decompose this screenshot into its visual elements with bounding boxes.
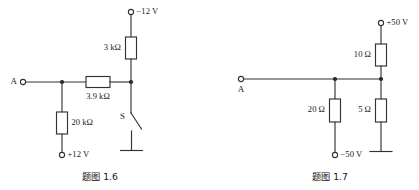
- resistor-10-label: 10 Ω: [354, 49, 371, 59]
- figure-sheet: −12 V 3 kΩ A 3.9 kΩ: [0, 0, 419, 190]
- figure-caption-1-6: 题图 1.6: [82, 171, 118, 182]
- terminal-ring-a-left[interactable]: [20, 79, 25, 84]
- terminal-label-a-right: A: [238, 84, 245, 94]
- switch-label-s: S: [120, 111, 125, 121]
- resistor-3k-label: 3 kΩ: [104, 42, 121, 52]
- terminal-ring-plus-50v[interactable]: [378, 20, 383, 25]
- resistor-20k: [57, 112, 68, 134]
- resistor-3k: [126, 37, 137, 59]
- supply-label-minus-50v: −50 V: [341, 149, 363, 159]
- figure-caption-1-7: 题图 1.7: [312, 171, 348, 182]
- resistor-3p9k: [86, 77, 110, 88]
- figure-1-6-group: −12 V 3 kΩ A 3.9 kΩ: [11, 6, 159, 182]
- resistor-10: [376, 44, 387, 66]
- terminal-ring-minus-12v[interactable]: [128, 9, 133, 14]
- circuit-diagram-canvas: −12 V 3 kΩ A 3.9 kΩ: [0, 0, 419, 190]
- switch-blade[interactable]: [131, 113, 142, 129]
- terminal-ring-a-right[interactable]: [238, 76, 243, 81]
- terminal-ring-minus-50v[interactable]: [332, 152, 337, 157]
- resistor-20-label: 20 Ω: [308, 104, 325, 114]
- resistor-20: [330, 99, 341, 122]
- supply-label-minus-12v: −12 V: [137, 6, 159, 16]
- resistor-5: [376, 99, 387, 122]
- terminal-ring-plus-12v[interactable]: [59, 152, 64, 157]
- resistor-3p9k-label: 3.9 kΩ: [86, 91, 110, 101]
- resistor-20k-label: 20 kΩ: [72, 117, 93, 127]
- figure-1-7-group: +50 V 10 Ω A 20 Ω −50 V: [238, 17, 409, 182]
- supply-label-plus-50v: +50 V: [387, 17, 409, 27]
- terminal-label-a-left: A: [11, 76, 18, 86]
- resistor-5-label: 5 Ω: [358, 104, 371, 114]
- supply-label-plus-12v: +12 V: [68, 149, 90, 159]
